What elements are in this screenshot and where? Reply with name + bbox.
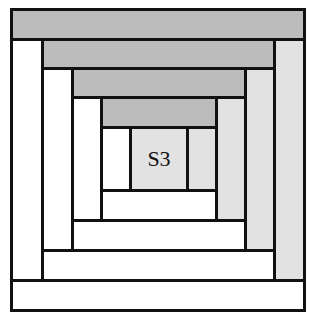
ring2-top-strip (41, 38, 276, 70)
ring3-left-strip (71, 96, 103, 222)
quilt-block: S3 (10, 8, 306, 312)
ring2-right-strip (244, 67, 276, 252)
ring2-bottom-strip (41, 249, 276, 282)
ring4-bottom-strip (100, 189, 218, 222)
ring4-left-strip (100, 126, 132, 192)
ring4-right-strip (186, 126, 218, 192)
ring2-left-strip (41, 67, 74, 252)
ring3-top-strip (71, 67, 247, 99)
ring4-top-strip (100, 96, 218, 129)
ring3-right-strip (215, 96, 247, 222)
ring1-top-strip (10, 8, 306, 41)
ring1-left-strip (10, 38, 44, 282)
ring1-right-strip (273, 38, 306, 282)
center-label: S3 (129, 126, 189, 192)
ring3-bottom-strip (71, 219, 247, 252)
ring1-bottom-strip (10, 279, 306, 312)
